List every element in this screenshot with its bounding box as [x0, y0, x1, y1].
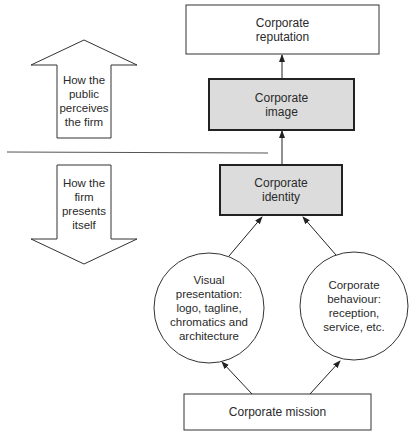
mission-label: Corporate mission: [184, 394, 371, 430]
image-label: Corporate image: [209, 79, 354, 130]
edge-mission-to-behaviour: [310, 361, 340, 394]
divider-line: [7, 152, 268, 153]
identity-label: Corporate identity: [220, 165, 342, 215]
visual-label: Visual presentation: logo, tagline, chro…: [156, 258, 262, 358]
edge-mission-to-visual: [222, 362, 252, 394]
up-arrow-label: How the public perceives the firm: [57, 66, 111, 136]
behaviour-label: Corporate behaviour: reception, service,…: [302, 258, 406, 354]
down-arrow-label: How the firm presents itself: [57, 172, 111, 236]
reputation-label: Corporate reputation: [186, 5, 379, 54]
edge-visual-to-identity: [229, 217, 262, 256]
edge-behaviour-to-identity: [303, 217, 336, 255]
